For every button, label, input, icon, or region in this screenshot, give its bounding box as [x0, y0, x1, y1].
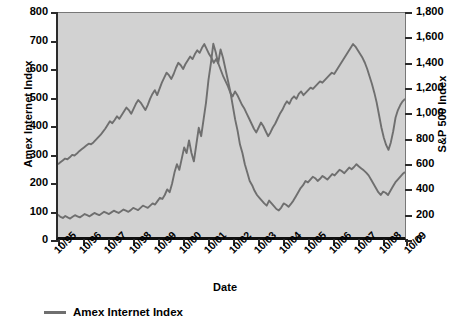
chart-figure: Amex Internet Index S&P 500 Index Date A… [0, 0, 467, 316]
y-axis-left-tick-label: 700 [6, 35, 48, 46]
y-axis-right-tick-label: 1,800 [416, 6, 464, 17]
y-axis-right-tick [405, 139, 412, 141]
y-axis-right-tick-label: 400 [416, 183, 464, 194]
y-axis-right-tick-label: 1,000 [416, 107, 464, 118]
legend-swatch-amex-internet-index [44, 311, 66, 314]
y-axis-right-tick-label: 200 [416, 209, 464, 220]
y-axis-left-tick-label: 400 [6, 120, 48, 131]
y-axis-right-tick-label: 800 [416, 133, 464, 144]
y-axis-right-tick-label: 1,200 [416, 82, 464, 93]
y-axis-right-tick-label: 1,400 [416, 57, 464, 68]
y-axis-left-tick [51, 183, 58, 185]
series-line [58, 44, 405, 219]
y-axis-right-tick-label: 600 [416, 158, 464, 169]
y-axis-left-tick-label: 200 [6, 177, 48, 188]
y-axis-left-tick [51, 12, 58, 14]
legend-label-amex-internet-index: Amex Internet Index [73, 306, 183, 316]
y-axis-left-tick-label: 100 [6, 206, 48, 217]
y-axis-right-tick [405, 113, 412, 115]
y-axis-left-tick-label: 600 [6, 63, 48, 74]
y-axis-right-tick [405, 215, 412, 217]
y-axis-left-tick-label: 500 [6, 92, 48, 103]
y-axis-left-tick-label: 0 [6, 234, 48, 245]
y-axis-right-tick [405, 37, 412, 39]
y-axis-left-tick [51, 98, 58, 100]
y-axis-right-tick [405, 63, 412, 65]
series-line [58, 44, 405, 164]
y-axis-right-tick [405, 189, 412, 191]
y-axis-right-tick-label: 1,600 [416, 31, 464, 42]
y-axis-left-tick-label: 800 [6, 6, 48, 17]
y-axis-left-tick [51, 126, 58, 128]
chart-legend: Amex Internet Index [44, 306, 183, 316]
y-axis-left-tick [51, 155, 58, 157]
series-container [58, 13, 405, 237]
plot-area [56, 12, 406, 240]
y-axis-left-tick [51, 41, 58, 43]
y-axis-left-tick [51, 69, 58, 71]
y-axis-left-title: Amex Internet Index [22, 34, 34, 194]
y-axis-right-tick [405, 164, 412, 166]
y-axis-left-tick [51, 212, 58, 214]
x-axis-title: Date [175, 281, 275, 293]
y-axis-left-tick-label: 300 [6, 149, 48, 160]
y-axis-right-tick [405, 88, 412, 90]
y-axis-right-tick [405, 12, 412, 14]
